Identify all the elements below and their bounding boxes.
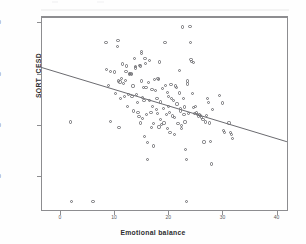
scatter-point	[181, 25, 184, 28]
scatter-point	[157, 78, 160, 81]
scatter-point	[158, 60, 161, 63]
scatter-point	[208, 121, 211, 124]
scatter-point	[204, 120, 207, 123]
scatter-point	[144, 62, 147, 65]
scatter-point	[183, 120, 186, 123]
scatter-point	[139, 121, 142, 124]
scatter-point	[155, 108, 158, 111]
scatter-point	[131, 84, 134, 87]
scatter-point	[140, 79, 143, 82]
x-tick-mark	[277, 211, 278, 215]
y-tick-label: 2.00	[0, 173, 1, 179]
scatter-point	[167, 105, 170, 108]
scatter-point	[211, 108, 214, 111]
scatter-point	[124, 70, 127, 73]
scatter-point	[125, 64, 128, 67]
y-tick-mark	[37, 125, 41, 126]
scatter-point	[159, 100, 162, 103]
y-tick-mark	[37, 74, 41, 75]
scatter-point	[118, 80, 121, 83]
scatter-point	[169, 83, 172, 86]
scatter-point	[231, 137, 234, 140]
scatter-point	[221, 101, 224, 104]
scatter-point	[178, 91, 181, 94]
scatter-point	[182, 113, 185, 116]
scatter-point	[126, 105, 129, 108]
y-tick-mark	[37, 176, 41, 177]
regression-line	[41, 67, 287, 141]
scatter-point	[185, 158, 188, 161]
scatter-point	[183, 105, 186, 108]
chart-page: SQRT_CESD 2.004.006.008.00 010203040 Emo…	[0, 0, 306, 244]
scatter-point	[164, 84, 167, 87]
scatter-point	[159, 118, 162, 121]
scatter-point	[149, 111, 152, 114]
x-tick-mark	[60, 211, 61, 215]
scatter-point	[119, 97, 122, 100]
scatter-point	[136, 101, 139, 104]
scatter-point	[179, 109, 182, 112]
scatter-point	[152, 144, 155, 147]
scatter-point	[136, 111, 139, 114]
scatter-point	[207, 101, 210, 104]
y-tick-label: 8.00	[0, 19, 1, 25]
scatter-point	[142, 99, 145, 102]
scatter-point	[162, 121, 165, 124]
scatter-point	[113, 70, 116, 73]
scatter-point	[163, 41, 166, 44]
scatter-point	[143, 57, 146, 60]
scatter-point	[117, 126, 120, 129]
x-tick-mark	[168, 211, 169, 215]
scatter-point	[132, 109, 135, 112]
y-tick-mark	[37, 22, 41, 23]
scatter-point	[188, 25, 191, 28]
y-tick-label: 4.00	[0, 122, 1, 128]
x-tick-mark	[222, 211, 223, 215]
scatter-point	[123, 95, 126, 98]
scatter-point	[205, 114, 208, 117]
scatter-point	[175, 102, 178, 105]
scatter-point	[104, 41, 107, 44]
y-tick-label: 6.00	[0, 71, 1, 77]
scatter-point	[139, 64, 142, 67]
scatter-point	[124, 79, 127, 82]
x-axis-title: Emotional balance	[0, 229, 306, 236]
scatter-point	[162, 107, 165, 110]
scatter-point	[210, 162, 213, 165]
x-tick-mark	[114, 211, 115, 215]
scatter-point	[227, 121, 230, 124]
scatter-point	[189, 41, 192, 44]
scatter-point	[192, 61, 195, 64]
scatter-point	[91, 200, 94, 203]
scatter-point	[168, 131, 171, 134]
scatter-point	[105, 68, 108, 71]
scatter-point	[202, 140, 205, 143]
scatter-point	[186, 79, 189, 82]
scatter-point	[146, 141, 149, 144]
